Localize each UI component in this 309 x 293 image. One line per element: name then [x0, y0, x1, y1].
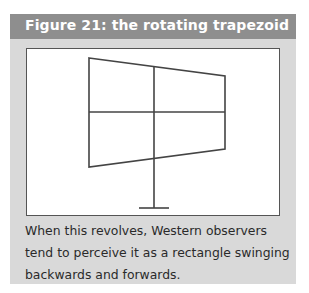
diagram-frame — [26, 48, 280, 216]
figure-box: Figure 21: the rotating trapezoid When t… — [10, 14, 296, 284]
figure-title: Figure 21: the rotating trapezoid — [25, 17, 289, 33]
figure-header: Figure 21: the rotating trapezoid — [10, 14, 296, 39]
rotating-trapezoid-diagram — [27, 49, 281, 217]
figure-caption: When this revolves, Western observers te… — [25, 220, 290, 286]
